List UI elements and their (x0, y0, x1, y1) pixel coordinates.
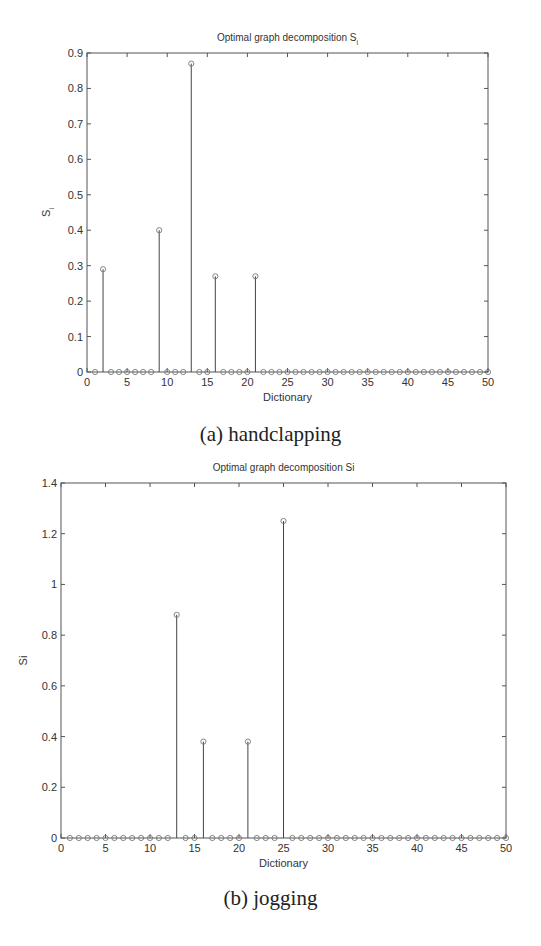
y-axis-label: Si (40, 208, 55, 217)
x-tick-label: 30 (321, 376, 333, 388)
x-tick-label: 45 (455, 842, 467, 854)
caption-jogging: (b) jogging (0, 886, 541, 911)
x-tick-label: 35 (362, 376, 374, 388)
x-tick-label: 0 (84, 376, 90, 388)
y-tick-label: 1.2 (42, 528, 57, 540)
chart-handclapping: 0510152025303540455000.10.20.30.40.50.60… (40, 32, 494, 403)
y-tick-label: 0.4 (42, 731, 57, 743)
caption-handclapping: (a) handclapping (0, 422, 541, 447)
chart-title: Optimal graph decomposition Si (213, 462, 355, 473)
y-tick-label: 0.1 (68, 331, 83, 343)
x-axis-label: Dictionary (263, 391, 312, 403)
y-tick-label: 0.8 (68, 82, 83, 94)
x-tick-label: 0 (58, 842, 64, 854)
y-tick-label: 0.2 (68, 295, 83, 307)
x-tick-label: 40 (402, 376, 414, 388)
x-tick-label: 30 (322, 842, 334, 854)
y-tick-label: 0.5 (68, 189, 83, 201)
x-tick-label: 50 (482, 376, 494, 388)
y-tick-label: 0.9 (68, 47, 83, 59)
x-axis-label: Dictionary (259, 857, 308, 869)
x-tick-label: 25 (281, 376, 293, 388)
y-tick-label: 0.7 (68, 118, 83, 130)
y-tick-label: 0.6 (42, 680, 57, 692)
x-tick-label: 35 (366, 842, 378, 854)
y-tick-label: 0.3 (68, 260, 83, 272)
x-tick-label: 10 (161, 376, 173, 388)
x-tick-label: 15 (201, 376, 213, 388)
x-tick-label: 20 (241, 376, 253, 388)
figure-canvas: 0510152025303540455000.10.20.30.40.50.60… (0, 0, 541, 946)
y-tick-label: 0 (77, 366, 83, 378)
x-tick-label: 10 (144, 842, 156, 854)
x-tick-label: 5 (102, 842, 108, 854)
x-tick-label: 50 (500, 842, 512, 854)
x-tick-label: 45 (442, 376, 454, 388)
y-tick-label: 1.4 (42, 477, 57, 489)
y-tick-label: 0.8 (42, 629, 57, 641)
x-tick-label: 40 (411, 842, 423, 854)
y-axis-label: Si (17, 656, 29, 666)
y-tick-label: 0 (51, 832, 57, 844)
x-tick-label: 20 (233, 842, 245, 854)
y-tick-label: 1 (51, 578, 57, 590)
x-tick-label: 25 (277, 842, 289, 854)
y-tick-label: 0.2 (42, 781, 57, 793)
x-tick-label: 15 (188, 842, 200, 854)
y-tick-label: 0.4 (68, 224, 83, 236)
chart-jogging: 0510152025303540455000.20.40.60.811.21.4… (17, 462, 512, 869)
chart-title: Optimal graph decomposition Si (217, 32, 359, 46)
plot-axes-box (87, 53, 488, 372)
x-tick-label: 5 (124, 376, 130, 388)
y-tick-label: 0.6 (68, 153, 83, 165)
